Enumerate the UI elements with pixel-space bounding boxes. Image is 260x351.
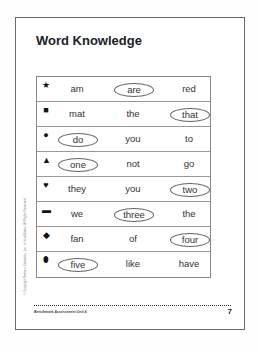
word-circled[interactable]: that [170,108,210,122]
table-row: ◆ fan of four [37,227,210,252]
word[interactable]: go [170,158,208,170]
rectangle-icon: ▬ [42,206,50,214]
page-title: Word Knowledge [36,33,142,48]
word-circled[interactable]: one [58,158,98,172]
word[interactable]: not [114,158,152,170]
word[interactable]: we [58,208,96,220]
table-row: ● do you to [37,127,210,152]
table-row: ■ mat the that [37,102,210,127]
word[interactable]: to [170,133,208,145]
footer-label: Benchmark Assessment Unit 4 [34,310,87,314]
table-row: ★ am are red [37,77,210,102]
word[interactable]: the [114,108,152,120]
circle-icon: ● [42,131,50,139]
word[interactable]: fan [58,233,96,245]
triangle-icon: ▲ [42,156,50,164]
table-row: ♥ they you two [37,177,210,202]
word-circled[interactable]: three [114,208,154,222]
word[interactable]: like [114,258,152,270]
table-row: ⬮ five like have [37,252,210,277]
word-circled[interactable]: are [114,83,154,97]
copyright-notice: © Copyright Pearson Education, Inc., or … [20,168,24,298]
word-circled[interactable]: do [58,133,98,147]
word[interactable]: red [170,83,208,95]
star-icon: ★ [42,81,50,89]
word[interactable]: you [114,133,152,145]
word[interactable]: mat [58,108,96,120]
word[interactable]: the [170,208,208,220]
word[interactable]: of [114,233,152,245]
word-circled[interactable]: four [170,233,210,247]
assessment-page: Word Knowledge ★ am are red ■ mat the th… [15,17,245,330]
table-row: ▬ we three the [37,202,210,227]
heart-icon: ♥ [42,181,50,189]
word[interactable]: am [58,83,96,95]
word[interactable]: they [58,183,96,195]
word-table: ★ am are red ■ mat the that ● do you to … [36,76,211,278]
table-row: ▲ one not go [37,152,210,177]
word-circled[interactable]: five [58,258,98,272]
word[interactable]: you [114,183,152,195]
diamond-icon: ◆ [42,231,50,239]
oval-icon: ⬮ [42,256,50,264]
page-number: 7 [228,307,232,316]
word[interactable]: have [170,258,208,270]
dotted-divider [34,305,231,306]
word-circled[interactable]: two [170,183,210,197]
square-icon: ■ [42,106,50,114]
